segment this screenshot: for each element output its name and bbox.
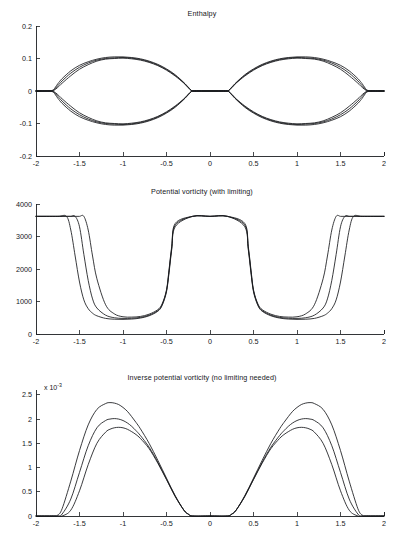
plot-area-inverse-potential-vorticity: -2-1.5-1-0.500.511.5200.511.522.5 [0,364,404,548]
x-tick-label: -1.5 [73,519,85,528]
x-tick-label: 1.5 [336,519,346,528]
y-tick-label: 2 [28,415,32,424]
data-curve [36,215,384,317]
x-tick-label: 1 [295,159,299,168]
x-tick-label: -1 [120,159,126,168]
x-tick-label: 1.5 [336,337,346,346]
data-curve [36,91,384,125]
y-tick-label: 0 [28,87,32,96]
x-tick-label: -1.5 [73,337,85,346]
x-tick-label: 1 [295,337,299,346]
x-tick-label: 2 [382,337,386,346]
data-curve [36,57,384,91]
data-curve [36,419,384,517]
data-curve [36,58,384,92]
x-tick-label: 0 [208,519,212,528]
y-tick-label: 1.5 [22,439,32,448]
y-tick-label: -0.2 [20,152,32,161]
y-tick-label: 4000 [16,200,32,209]
panel-enthalpy: Enthalpy -2-1.5-1-0.500.511.52-0.2-0.100… [0,0,404,182]
y-tick-label: 2000 [16,265,32,274]
y-tick-label: 2.5 [22,390,32,399]
x-tick-label: 0.5 [249,337,259,346]
plot-area-enthalpy: -2-1.5-1-0.500.511.52-0.2-0.100.10.2 [0,0,404,182]
x-tick-label: 1.5 [336,159,346,168]
panel-potential-vorticity: Potential vorticity (with limiting) -2-1… [0,182,404,364]
figure-container: Enthalpy -2-1.5-1-0.500.511.52-0.2-0.100… [0,0,404,548]
x-tick-label: -0.5 [160,159,172,168]
x-tick-label: 0 [208,337,212,346]
panel-inverse-potential-vorticity: Inverse potential vorticity (no limiting… [0,364,404,548]
x-tick-label: -0.5 [160,337,172,346]
data-curve [36,427,384,516]
y-tick-label: -0.1 [20,119,32,128]
x-tick-label: -1 [120,519,126,528]
x-tick-label: 0 [208,159,212,168]
x-tick-label: -2 [33,519,39,528]
x-tick-label: 1 [295,519,299,528]
x-tick-label: -1 [120,337,126,346]
x-tick-label: -0.5 [160,519,172,528]
x-tick-label: 2 [382,519,386,528]
data-curve [36,91,384,125]
x-tick-label: 2 [382,159,386,168]
x-tick-label: -1.5 [73,159,85,168]
x-tick-label: -2 [33,337,39,346]
y-tick-label: 0.2 [22,22,32,31]
y-tick-label: 0.5 [22,487,32,496]
x-tick-label: 0.5 [249,159,259,168]
data-curve [36,403,384,517]
y-tick-label: 1000 [16,297,32,306]
y-tick-label: 0.1 [22,54,32,63]
y-tick-label: 1 [28,463,32,472]
x-tick-label: -2 [33,159,39,168]
y-tick-label: 0 [28,330,32,339]
y-tick-label: 0 [28,512,32,521]
x-tick-label: 0.5 [249,519,259,528]
plot-area-potential-vorticity: -2-1.5-1-0.500.511.5201000200030004000 [0,182,404,364]
y-tick-label: 3000 [16,232,32,241]
